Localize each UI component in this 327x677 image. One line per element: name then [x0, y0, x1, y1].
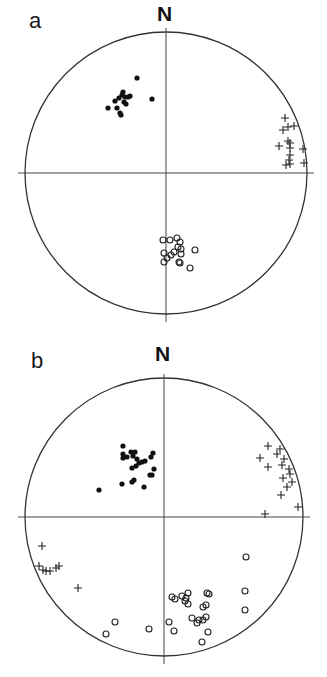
series-filled-circle	[96, 443, 156, 492]
series-open-circle	[103, 554, 249, 645]
plus-marker	[264, 463, 272, 471]
plus-marker	[294, 503, 302, 511]
plus-marker	[35, 562, 43, 570]
filled-circle-marker	[118, 112, 123, 117]
filled-circle-marker	[105, 105, 110, 110]
open-circle-marker	[166, 619, 172, 625]
plus-marker	[286, 160, 294, 168]
filled-circle-marker	[129, 465, 134, 470]
open-circle-marker	[164, 255, 170, 261]
filled-circle-marker	[124, 454, 129, 459]
filled-circle-marker	[149, 472, 154, 477]
plus-marker	[290, 122, 298, 130]
open-circle-marker	[171, 628, 177, 634]
open-circle-marker	[189, 615, 195, 621]
stereonet-b	[0, 340, 327, 677]
filled-circle-marker	[142, 458, 147, 463]
open-circle-marker	[112, 619, 118, 625]
plus-marker	[286, 151, 294, 159]
plus-marker	[275, 142, 283, 150]
plus-marker	[38, 542, 46, 550]
plus-marker	[286, 470, 294, 478]
plus-marker	[74, 584, 82, 592]
series-filled-circle	[105, 75, 154, 117]
plus-marker	[256, 454, 264, 462]
stereonet-panel-b: b N	[0, 340, 327, 677]
plus-marker	[278, 461, 286, 469]
open-circle-marker	[146, 626, 152, 632]
open-circle-marker	[167, 237, 173, 243]
filled-circle-marker	[123, 101, 128, 106]
filled-circle-marker	[132, 449, 137, 454]
plus-marker	[281, 114, 289, 122]
filled-circle-marker	[127, 93, 132, 98]
open-circle-marker	[242, 588, 248, 594]
open-circle-marker	[192, 247, 198, 253]
stereonet-a	[0, 0, 327, 340]
filled-circle-marker	[149, 96, 154, 101]
open-circle-marker	[205, 629, 211, 635]
stereonet-panel-a: a N	[0, 0, 327, 340]
filled-circle-marker	[119, 481, 124, 486]
filled-circle-marker	[114, 105, 119, 110]
plus-marker	[279, 474, 287, 482]
filled-circle-marker	[96, 487, 101, 492]
open-circle-marker	[243, 554, 249, 560]
filled-circle-marker	[120, 89, 125, 94]
filled-circle-marker	[148, 454, 153, 459]
filled-circle-marker	[120, 443, 125, 448]
open-circle-marker	[199, 639, 205, 645]
plus-marker	[277, 491, 285, 499]
open-circle-marker	[187, 265, 193, 271]
filled-circle-marker	[134, 75, 139, 80]
filled-circle-marker	[151, 466, 156, 471]
plus-marker	[264, 442, 272, 450]
plus-marker	[285, 465, 293, 473]
open-circle-marker	[103, 631, 109, 637]
plus-marker	[288, 478, 296, 486]
open-circle-marker	[160, 237, 166, 243]
filled-circle-marker	[141, 484, 146, 489]
plus-marker	[284, 137, 292, 145]
filled-circle-marker	[131, 477, 136, 482]
plus-marker	[280, 455, 288, 463]
plus-marker	[286, 144, 294, 152]
open-circle-marker	[206, 591, 212, 597]
filled-circle-marker	[116, 95, 121, 100]
plus-marker	[283, 483, 291, 491]
open-circle-marker	[174, 235, 180, 241]
open-circle-marker	[242, 607, 248, 613]
